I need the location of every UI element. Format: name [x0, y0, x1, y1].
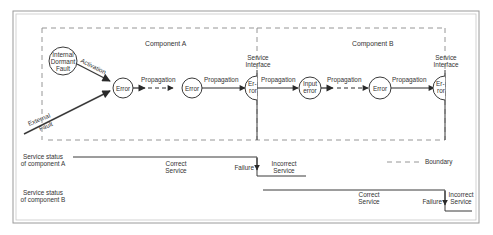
correct-service-b: Correct	[359, 191, 380, 198]
input-error-node-b: Input error	[299, 77, 321, 99]
svg-text:Service: Service	[247, 54, 269, 61]
component-b-label: Component B	[352, 40, 394, 48]
svg-text:Service status: Service status	[23, 189, 63, 196]
propagation-edge-interface-input: Propagation	[257, 76, 298, 88]
propagation-edge-input-b1: Propagation	[321, 76, 368, 88]
interface-error-b-2: ror	[437, 87, 446, 94]
service-interface-b: Service Interface	[433, 54, 459, 140]
fault-propagation-diagram: Component A Component B Internal Dormant…	[0, 0, 493, 235]
svg-text:Error: Error	[185, 85, 200, 92]
error-node-b1: Error	[369, 77, 391, 99]
svg-text:Internal: Internal	[52, 51, 73, 58]
incorrect-service-a: Incorrect	[272, 160, 297, 167]
svg-text:Propagation: Propagation	[327, 76, 362, 84]
svg-text:Service: Service	[165, 167, 187, 174]
svg-text:Propagation: Propagation	[392, 76, 427, 84]
svg-text:Fault: Fault	[56, 65, 70, 72]
error-node-a1: Error	[113, 78, 133, 98]
internal-dormant-fault-node: Internal Dormant Fault	[49, 47, 77, 75]
svg-text:Service: Service	[273, 167, 295, 174]
legend-boundary: Boundary	[387, 158, 453, 166]
component-a-label: Component A	[145, 40, 187, 48]
svg-text:Error: Error	[373, 85, 388, 92]
svg-text:Propagation: Propagation	[204, 76, 239, 84]
propagation-edge-a1-a2: Propagation	[133, 76, 176, 88]
svg-text:Propagation: Propagation	[261, 76, 296, 84]
svg-text:Boundary: Boundary	[425, 158, 453, 166]
svg-text:Service: Service	[450, 198, 472, 205]
interface-error-a-1: Er-	[248, 80, 257, 87]
component-b-boundary	[257, 28, 445, 140]
svg-text:Service: Service	[358, 198, 380, 205]
svg-text:error: error	[303, 87, 317, 94]
svg-text:Service status: Service status	[23, 153, 63, 160]
svg-text:Interface: Interface	[434, 61, 459, 68]
service-interface-a: Service Interface	[245, 54, 271, 140]
svg-text:Propagation: Propagation	[141, 76, 176, 84]
incorrect-service-b: Incorrect	[449, 191, 474, 198]
svg-text:Error: Error	[116, 85, 131, 92]
svg-text:of component B: of component B	[21, 196, 66, 204]
failure-a: Failure	[234, 164, 254, 171]
failure-b: Failure	[422, 198, 442, 205]
error-node-a2: Error	[182, 78, 202, 98]
propagation-edge-a2-interface: Propagation	[202, 76, 245, 88]
svg-text:of component A: of component A	[21, 160, 66, 168]
external-fault-edge	[24, 91, 110, 134]
svg-text:Dormant: Dormant	[51, 58, 76, 65]
outer-frame	[13, 11, 479, 223]
svg-text:Service: Service	[435, 54, 457, 61]
inner-frame	[16, 14, 476, 220]
interface-error-b-1: Er-	[436, 80, 445, 87]
svg-text:Interface: Interface	[246, 61, 271, 68]
propagation-edge-b1-interface: Propagation	[391, 76, 434, 88]
status-row-component-b: Service status of component B Correct Se…	[21, 189, 474, 211]
interface-error-a-2: ror	[249, 87, 258, 94]
status-row-component-a: Service status of component A Correct Se…	[21, 153, 306, 176]
correct-service-a: Correct	[166, 160, 187, 167]
